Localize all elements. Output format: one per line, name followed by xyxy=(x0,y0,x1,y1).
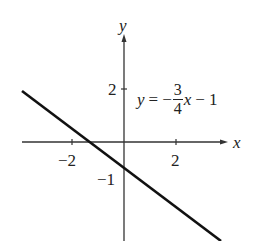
fraction-numerator: 3 xyxy=(173,82,183,100)
equation-label: y = − 3 4 x − 1 xyxy=(137,82,217,117)
equation-constant: 1 xyxy=(209,90,218,110)
equation-constant-op: − xyxy=(195,90,205,110)
x-axis-label: x xyxy=(233,134,241,151)
equation-lhs: y xyxy=(137,90,145,110)
equation-fraction: 3 4 xyxy=(173,82,183,117)
y-intercept-label: −1 xyxy=(97,171,115,188)
chart-canvas xyxy=(0,0,253,241)
y-axis-label: y xyxy=(119,17,127,34)
equation-equals: = xyxy=(149,90,159,110)
x-tick-label-neg2: −2 xyxy=(58,152,76,169)
equation-sign: − xyxy=(162,90,172,110)
equation-variable: x xyxy=(184,90,192,110)
y-tick-label-2: 2 xyxy=(108,81,117,98)
x-tick-label-2: 2 xyxy=(171,152,180,169)
x-axis-arrow-icon xyxy=(220,140,228,145)
y-axis-arrow-icon xyxy=(122,34,127,42)
chart-figure: y x 2 −2 2 −1 y = − 3 4 x − 1 xyxy=(0,0,253,241)
fraction-denominator: 4 xyxy=(174,100,182,117)
